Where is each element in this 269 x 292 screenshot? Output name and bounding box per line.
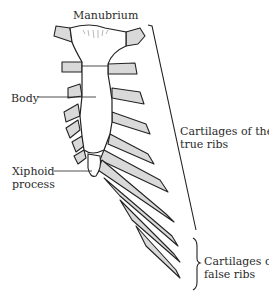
left-rib-1: [54, 26, 72, 42]
right-cartilage-9: [120, 200, 180, 262]
manubrium-label: Manubrium: [73, 9, 138, 22]
true-ribs-label-line2: true ribs: [180, 138, 269, 151]
xiphoid-process-label: Xiphoid process: [12, 165, 55, 191]
left-rib-3: [68, 84, 82, 98]
xiphoid-label-line2: process: [12, 178, 55, 191]
right-cartilage-2: [108, 63, 137, 74]
right-cartilage-3: [112, 88, 144, 104]
right-cartilage-10: [136, 226, 180, 278]
xiphoid-label-line1: Xiphoid: [12, 165, 55, 178]
true-ribs-label-line1: Cartilages of the: [180, 125, 269, 138]
false-ribs-label-line2: false ribs: [204, 268, 269, 281]
left-rib-2: [62, 62, 82, 72]
body-label: Body: [11, 92, 39, 105]
left-rib-4: [64, 104, 80, 122]
right-cartilage-4: [112, 112, 150, 134]
false-ribs-label-line1: Cartilages of: [204, 255, 269, 268]
false-ribs-bracket: [193, 238, 200, 290]
true-ribs-cartilage-label: Cartilages of the true ribs: [180, 125, 269, 151]
false-ribs-cartilage-label: Cartilages of false ribs: [204, 255, 269, 281]
left-rib-5: [66, 120, 80, 138]
right-cartilage-1: [126, 28, 145, 46]
xiphoid-process: [88, 154, 101, 176]
